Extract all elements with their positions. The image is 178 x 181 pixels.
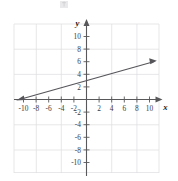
graph-figure: -10 -8 -6 -4 -2 2 4 6 8 10 10 8 6 4 2 -2… — [0, 0, 178, 181]
y-axis-label: y — [75, 18, 80, 28]
top-speck-artifact — [60, 1, 68, 8]
x-axis-label: x — [162, 102, 168, 112]
x-tick-label: 4 — [110, 104, 114, 113]
x-tick-label: 6 — [122, 104, 126, 113]
x-tick-label: 10 — [146, 104, 154, 113]
y-tick-label: 4 — [77, 70, 81, 79]
y-tick-label: -10 — [71, 158, 81, 167]
x-tick-label: -10 — [19, 104, 29, 113]
x-tick-label: -4 — [58, 104, 64, 113]
x-tick-label: 8 — [135, 104, 139, 113]
x-tick-label: -8 — [33, 104, 39, 113]
y-tick-label: 8 — [77, 45, 81, 54]
y-axis — [84, 19, 90, 176]
y-tick-label: -6 — [75, 133, 81, 142]
y-tick-label: 2 — [77, 83, 81, 92]
y-tick-label: 6 — [77, 57, 81, 66]
y-tick-label: 10 — [74, 32, 82, 41]
coordinate-plane-svg: -10 -8 -6 -4 -2 2 4 6 8 10 10 8 6 4 2 -2… — [0, 0, 178, 181]
x-tick-label: -6 — [46, 104, 52, 113]
x-tick-label: 2 — [97, 104, 101, 113]
y-tick-label: -2 — [75, 108, 81, 117]
y-tick-label: -8 — [75, 146, 81, 155]
y-tick-label: -4 — [75, 120, 81, 129]
